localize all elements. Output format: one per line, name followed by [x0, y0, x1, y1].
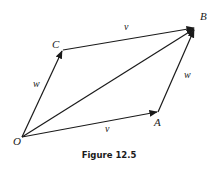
point-label-b: B	[200, 10, 207, 22]
parallelogram-diagram: O A B C v⃗ v⃗ w⃗ w⃗ Figure 12.5	[0, 0, 216, 172]
point-label-c: C	[52, 38, 60, 50]
point-label-o: O	[13, 135, 21, 147]
figure-caption: Figure 12.5	[82, 150, 137, 160]
vector-label-oc: w⃗	[33, 78, 47, 89]
vector-label-oa: v⃗	[105, 123, 117, 134]
point-label-a: A	[153, 116, 161, 128]
vector-label-ab: w⃗	[184, 69, 198, 80]
vector-label-cb: v⃗	[124, 21, 136, 32]
